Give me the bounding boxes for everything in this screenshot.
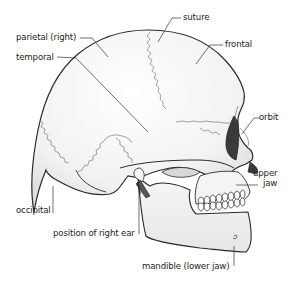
label-mandible: mandible (lower jaw)	[142, 261, 229, 271]
label-upper-jaw-line2: jaw	[263, 178, 277, 188]
label-temporal: temporal	[16, 52, 54, 62]
leader-orbit	[242, 118, 260, 134]
label-occipital: occipital	[16, 205, 51, 215]
label-upper-jaw-line1: upper	[253, 168, 277, 178]
label-frontal: frontal	[225, 39, 252, 49]
label-orbit: orbit	[259, 112, 278, 122]
label-suture: suture	[183, 12, 209, 22]
skull-diagram: parietal (right) temporal suture frontal…	[0, 0, 293, 281]
label-parietal: parietal (right)	[16, 32, 76, 42]
label-ear: position of right ear	[53, 228, 135, 238]
